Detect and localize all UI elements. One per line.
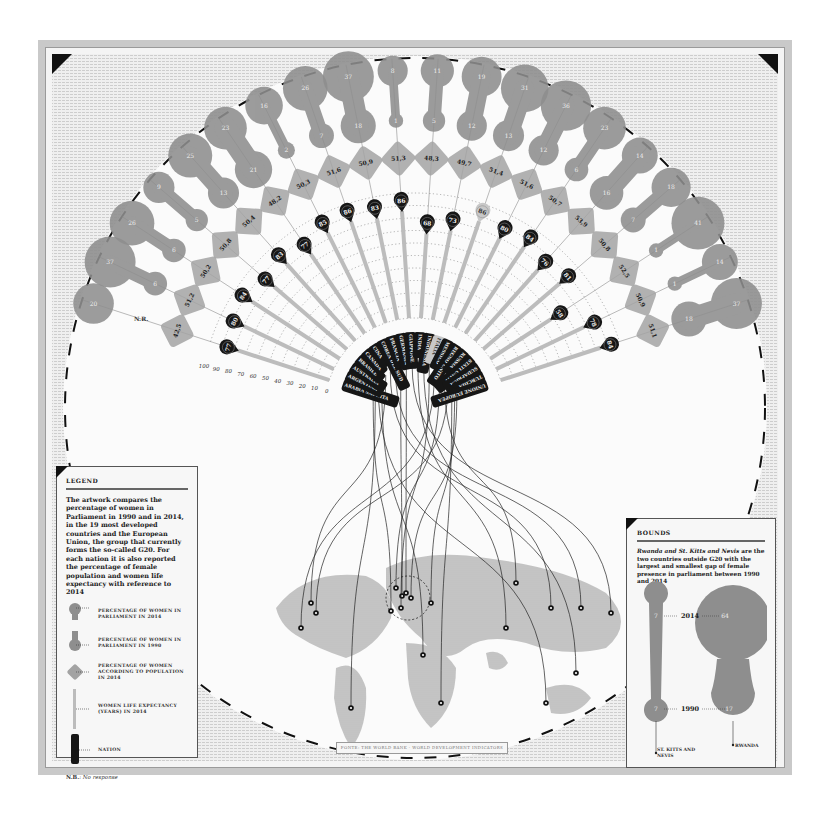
legend-label: NATION xyxy=(98,747,121,753)
svg-text:51,3: 51,3 xyxy=(391,154,406,162)
value-2014: 16 xyxy=(260,102,268,109)
axis-tick: 90 xyxy=(213,366,220,372)
no-response-note: N.B.: No response xyxy=(66,774,188,780)
svg-text:64: 64 xyxy=(721,612,729,619)
st-kitts-label: ST. KITTS AND NEVIS xyxy=(657,747,697,759)
svg-text:7: 7 xyxy=(654,705,658,712)
legend-description: The artwork compares the percentage of w… xyxy=(66,496,188,597)
population-diamond-icon xyxy=(66,660,92,684)
axis-tick: 30 xyxy=(286,380,293,386)
svg-text:2014: 2014 xyxy=(681,612,700,620)
source-credit: FONTE: THE WORLD BANK · WORLD DEVELOPMEN… xyxy=(336,742,508,754)
axis-tick: 40 xyxy=(273,378,281,384)
axis-tick: 50 xyxy=(262,375,269,381)
nation-tag-icon xyxy=(66,734,92,766)
rwanda-label: RWANDA xyxy=(735,743,758,748)
poster: 01020304050607080901007742,520N.R.ARABIA… xyxy=(46,48,784,767)
value-2014: 18 xyxy=(667,183,675,190)
svg-text:17: 17 xyxy=(725,705,733,712)
bounds-description: Rwanda and St. Kitts and Nevis are the t… xyxy=(637,548,765,586)
value-2014: 8 xyxy=(391,67,395,74)
value-1990: 6 xyxy=(153,280,157,287)
bounds-chart: 7 64 7 17 2014 1990 xyxy=(637,581,767,761)
corner-mark xyxy=(56,466,68,478)
poster-frame: 01020304050607080901007742,520N.R.ARABIA… xyxy=(38,40,792,775)
svg-text:68: 68 xyxy=(423,219,432,227)
note-value: : No response xyxy=(79,774,118,780)
axis-tick: 70 xyxy=(237,371,244,377)
value-1990: 1 xyxy=(394,117,398,124)
corner-mark xyxy=(626,518,638,530)
value-1990: 18 xyxy=(354,122,362,129)
value-1990: 6 xyxy=(172,246,176,253)
value-2014: 31 xyxy=(521,84,529,91)
legend-title: LEGEND xyxy=(66,477,188,484)
legend-item-2014: PERCENTAGE OF WOMEN IN PARLIAMENT IN 201… xyxy=(66,602,188,626)
value-1990: 12 xyxy=(540,146,548,153)
value-2014: 9 xyxy=(157,183,161,190)
legend-label: WOMEN LIFE EXPECTANCY (YEARS) IN 2014 xyxy=(98,703,188,715)
value-1990: 1 xyxy=(673,280,677,287)
axis-tick: 60 xyxy=(250,373,257,379)
divider xyxy=(66,488,188,490)
value-1990: 6 xyxy=(575,166,579,173)
value-2014: 25 xyxy=(186,152,194,159)
value-1990: 21 xyxy=(250,166,258,173)
legend-label: PERCENTAGE OF WOMEN ACCORDING TO POPULAT… xyxy=(98,663,188,681)
value-1990: 7 xyxy=(320,132,324,139)
axis-tick: 20 xyxy=(298,383,306,389)
legend-label: PERCENTAGE OF WOMEN IN PARLIAMENT IN 201… xyxy=(98,608,188,620)
divider xyxy=(637,540,765,542)
axis-tick: 100 xyxy=(199,363,210,369)
value-1990: 12 xyxy=(468,122,476,129)
value-2014: 14 xyxy=(636,152,644,159)
svg-text:48,3: 48,3 xyxy=(424,154,439,162)
bounds-countries: Rwanda and St. Kitts and Nevis xyxy=(637,548,739,554)
value-2014: 36 xyxy=(562,102,570,109)
value-2014: 37 xyxy=(106,258,114,265)
value-1990: 7 xyxy=(631,216,635,223)
value-2014: 26 xyxy=(301,84,309,91)
value-2014: 20 xyxy=(90,300,98,307)
bounds-panel: BOUNDS Rwanda and St. Kitts and Nevis ar… xyxy=(626,518,776,768)
life-expectancy-bar-icon xyxy=(66,689,92,729)
value-2014: 14 xyxy=(716,258,724,265)
value-2014: 23 xyxy=(222,124,230,131)
svg-text:1990: 1990 xyxy=(681,705,700,713)
value-1990: 1 xyxy=(654,246,658,253)
svg-text:7: 7 xyxy=(654,612,658,619)
bounds-title: BOUNDS xyxy=(637,529,765,536)
value-2014: 11 xyxy=(434,67,442,74)
value-2014: 26 xyxy=(128,219,136,226)
value-1990: 13 xyxy=(505,132,513,139)
value-1990: 16 xyxy=(603,189,611,196)
value-1990: 5 xyxy=(432,117,436,124)
value-1990: N.R. xyxy=(134,315,148,322)
value-2014: 19 xyxy=(478,73,486,80)
legend-panel: LEGEND The artwork compares the percenta… xyxy=(56,466,198,758)
parliament-2014-blob-icon xyxy=(66,602,92,626)
value-2014: 41 xyxy=(694,219,702,226)
axis-tick: 0 xyxy=(325,388,329,394)
legend-item-life-expectancy: WOMEN LIFE EXPECTANCY (YEARS) IN 2014 xyxy=(66,689,188,729)
parliament-1990-blob-icon xyxy=(66,631,92,655)
svg-text:86: 86 xyxy=(397,197,406,205)
axis-tick: 10 xyxy=(311,385,318,391)
legend-item-nation: NATION xyxy=(66,734,188,766)
legend-item-1990: PERCENTAGE OF WOMEN IN PARLIAMENT IN 199… xyxy=(66,631,188,655)
value-1990: 13 xyxy=(220,189,228,196)
legend-label: PERCENTAGE OF WOMEN IN PARLIAMENT IN 199… xyxy=(98,637,188,649)
value-2014: 23 xyxy=(601,124,609,131)
value-2014: 37 xyxy=(733,300,741,307)
legend-item-population: PERCENTAGE OF WOMEN ACCORDING TO POPULAT… xyxy=(66,660,188,684)
value-1990: 5 xyxy=(195,216,199,223)
value-2014: 37 xyxy=(345,73,353,80)
value-1990: 2 xyxy=(284,146,288,153)
note-key: N.B. xyxy=(66,774,79,780)
value-1990: 18 xyxy=(685,315,693,322)
axis-tick: 80 xyxy=(225,368,232,374)
